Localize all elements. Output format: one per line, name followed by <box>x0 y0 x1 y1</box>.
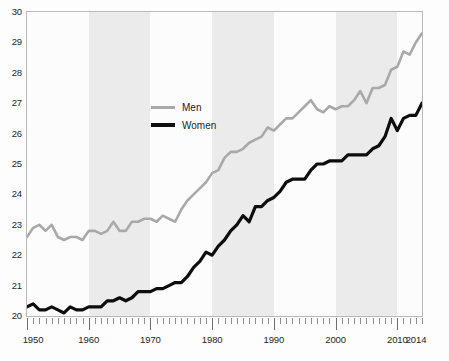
x-minor-tick-1999 <box>329 318 330 324</box>
x-tick-label-1980: 1980 <box>202 334 223 345</box>
x-minor-tick-1978 <box>200 318 201 324</box>
x-minor-tick-1973 <box>169 318 170 324</box>
x-minor-tick-1991 <box>280 318 281 324</box>
x-minor-tick-2008 <box>385 318 386 324</box>
x-minor-tick-1985 <box>243 318 244 324</box>
y-tick-label-27: 27 <box>0 97 22 108</box>
x-tick-label-2000: 2000 <box>325 334 346 345</box>
x-major-tick-1950 <box>27 318 28 330</box>
legend: Men Women <box>151 101 216 131</box>
legend-item-women: Women <box>151 119 216 131</box>
legend-label-men: Men <box>182 102 201 113</box>
x-major-tick-1970 <box>150 318 151 330</box>
x-minor-tick-1989 <box>268 318 269 324</box>
y-tick-label-21: 21 <box>0 280 22 291</box>
x-minor-tick-2002 <box>348 318 349 324</box>
x-minor-tick-1974 <box>175 318 176 324</box>
x-minor-tick-1984 <box>237 318 238 324</box>
x-minor-tick-1965 <box>120 318 121 324</box>
series-line-men <box>27 33 422 240</box>
x-minor-tick-1987 <box>255 318 256 324</box>
x-minor-tick-1981 <box>218 318 219 324</box>
y-tick-label-29: 29 <box>0 36 22 47</box>
y-tick-label-24: 24 <box>0 188 22 199</box>
x-minor-tick-1994 <box>299 318 300 324</box>
x-minor-tick-2005 <box>366 318 367 324</box>
x-minor-tick-1996 <box>311 318 312 324</box>
x-minor-tick-1998 <box>323 318 324 324</box>
x-minor-tick-1967 <box>132 318 133 324</box>
x-minor-tick-1995 <box>305 318 306 324</box>
x-minor-tick-2014 <box>422 318 423 324</box>
series-container <box>27 12 422 316</box>
x-minor-tick-2001 <box>342 318 343 324</box>
plot-area <box>26 11 423 317</box>
x-minor-tick-1954 <box>52 318 53 324</box>
x-minor-tick-1975 <box>181 318 182 324</box>
x-minor-tick-1962 <box>101 318 102 324</box>
x-minor-tick-1986 <box>249 318 250 324</box>
x-minor-tick-1969 <box>144 318 145 324</box>
x-minor-tick-1952 <box>39 318 40 324</box>
x-minor-tick-2012 <box>410 318 411 324</box>
legend-label-women: Women <box>182 120 216 131</box>
x-minor-tick-1977 <box>194 318 195 324</box>
x-minor-tick-2003 <box>354 318 355 324</box>
x-tick-label-1990: 1990 <box>264 334 285 345</box>
x-minor-tick-1993 <box>292 318 293 324</box>
x-minor-tick-2009 <box>391 318 392 324</box>
x-major-tick-1980 <box>212 318 213 330</box>
x-minor-tick-1951 <box>33 318 34 324</box>
x-minor-tick-2006 <box>373 318 374 324</box>
x-minor-tick-1955 <box>58 318 59 324</box>
x-minor-tick-1997 <box>317 318 318 324</box>
legend-swatch-women-icon <box>151 123 175 127</box>
x-minor-tick-2013 <box>416 318 417 324</box>
x-major-tick-1960 <box>89 318 90 330</box>
series-line-women <box>27 103 422 313</box>
y-tick-label-25: 25 <box>0 158 22 169</box>
legend-swatch-men-icon <box>151 106 175 109</box>
x-major-tick-2000 <box>336 318 337 330</box>
x-minor-tick-1983 <box>231 318 232 324</box>
x-tick-label-1970: 1970 <box>140 334 161 345</box>
x-tick-label-2014: 2014 <box>406 334 427 345</box>
x-minor-tick-1988 <box>262 318 263 324</box>
x-minor-tick-1953 <box>46 318 47 324</box>
y-tick-label-30: 30 <box>0 6 22 17</box>
x-minor-tick-1982 <box>225 318 226 324</box>
x-tick-label-2010: 2010 <box>387 334 408 345</box>
y-tick-label-20: 20 <box>0 310 22 321</box>
x-minor-tick-1992 <box>286 318 287 324</box>
x-minor-tick-1961 <box>95 318 96 324</box>
x-minor-tick-2007 <box>379 318 380 324</box>
x-minor-tick-1964 <box>113 318 114 324</box>
x-minor-tick-1956 <box>64 318 65 324</box>
line-chart: Men Women 2021222324252627282930 1950196… <box>0 0 449 361</box>
x-minor-tick-1958 <box>76 318 77 324</box>
x-minor-tick-1976 <box>187 318 188 324</box>
x-major-tick-2010 <box>397 318 398 330</box>
x-minor-tick-2011 <box>403 318 404 324</box>
x-minor-tick-1979 <box>206 318 207 324</box>
y-tick-label-26: 26 <box>0 128 22 139</box>
x-minor-tick-1968 <box>138 318 139 324</box>
y-tick-label-22: 22 <box>0 249 22 260</box>
x-minor-tick-1972 <box>163 318 164 324</box>
x-tick-label-1960: 1960 <box>78 334 99 345</box>
y-tick-label-23: 23 <box>0 219 22 230</box>
x-minor-tick-1963 <box>107 318 108 324</box>
y-tick-label-28: 28 <box>0 67 22 78</box>
x-minor-tick-1959 <box>83 318 84 324</box>
x-minor-tick-1971 <box>157 318 158 324</box>
x-tick-label-1950: 1950 <box>23 334 44 345</box>
x-minor-tick-1966 <box>126 318 127 324</box>
x-minor-tick-2004 <box>360 318 361 324</box>
x-minor-tick-1957 <box>70 318 71 324</box>
legend-item-men: Men <box>151 101 216 113</box>
x-major-tick-1990 <box>274 318 275 330</box>
x-axis-ticks <box>26 318 423 331</box>
